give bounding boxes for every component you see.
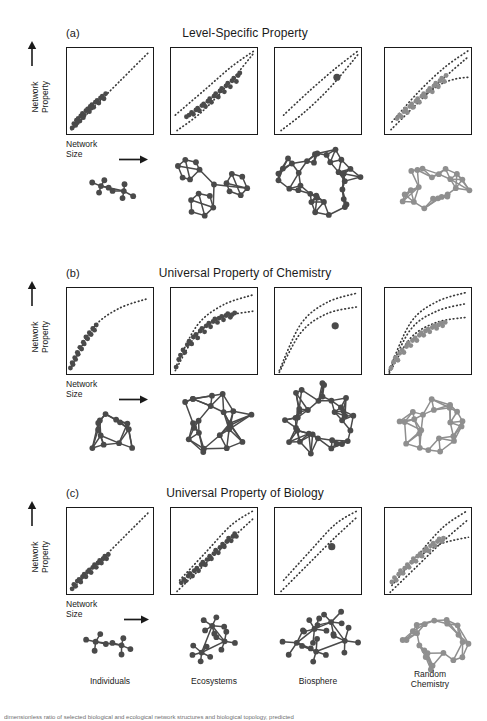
network-node — [92, 648, 98, 654]
network-node — [316, 616, 322, 622]
network-node — [339, 620, 345, 626]
network-node — [224, 445, 230, 451]
network-node — [447, 176, 453, 182]
network-node — [122, 181, 128, 187]
data-point — [394, 578, 399, 583]
network-node — [327, 159, 333, 165]
network-node — [435, 195, 441, 201]
network-node — [190, 420, 196, 426]
network-node — [128, 646, 134, 652]
network-c-biosphere — [266, 600, 374, 680]
data-point — [73, 357, 78, 362]
data-point — [414, 559, 419, 564]
network-node — [314, 151, 320, 157]
network-node — [400, 199, 406, 205]
scatter-panel-c-random-chemistry[interactable] — [384, 507, 472, 595]
network-node — [285, 155, 291, 161]
network-node — [97, 418, 103, 424]
network-node — [119, 642, 125, 648]
network-node — [456, 632, 462, 638]
data-point — [328, 543, 335, 550]
network-node — [210, 205, 216, 211]
network-node — [338, 157, 344, 163]
x-axis-label-line1: Network — [66, 379, 97, 389]
data-point — [96, 101, 101, 106]
column-label-random-chemistry-line1: Random — [414, 669, 446, 679]
scatter-panel-a-individuals[interactable] — [66, 47, 154, 135]
y-axis-label-c: Network Property — [30, 522, 50, 592]
data-point — [99, 561, 104, 566]
data-point — [399, 114, 404, 119]
data-point — [203, 562, 208, 567]
data-point — [85, 336, 90, 341]
network-node — [98, 183, 104, 189]
y-axis-label-b: Network Property — [30, 302, 50, 372]
y-axis-label-a: Network Property — [30, 62, 50, 132]
network-node — [324, 628, 330, 634]
figure-caption: dimensionless ratio of selected biologic… — [4, 714, 483, 721]
network-node — [310, 659, 316, 665]
network-node — [343, 395, 349, 401]
data-point — [391, 360, 396, 365]
data-point — [82, 341, 87, 346]
lower-curve — [390, 520, 467, 592]
data-point — [417, 100, 422, 105]
network-node — [459, 423, 465, 429]
scatter-panel-c-biosphere[interactable] — [274, 507, 362, 595]
upper-curve — [175, 295, 252, 368]
scatter-panel-a-random-chemistry[interactable] — [384, 47, 472, 135]
data-point — [427, 329, 432, 334]
data-point — [103, 91, 108, 96]
network-node — [232, 640, 238, 646]
network-node — [416, 643, 422, 649]
network-node — [437, 449, 443, 455]
network-node — [328, 445, 334, 451]
y-axis-label-line2: Property — [40, 321, 50, 353]
middle-curve — [389, 303, 466, 371]
network-node — [190, 643, 196, 649]
network-node — [209, 393, 215, 399]
network-node — [459, 177, 465, 183]
x-axis-label-line1: Network — [66, 139, 97, 149]
scatter-panel-b-ecosystems[interactable] — [170, 287, 258, 375]
network-node — [175, 163, 181, 169]
data-point — [216, 95, 221, 100]
network-c-ecosystems — [164, 608, 264, 674]
row-tag-c: (c) — [66, 487, 79, 499]
x-axis-label-b: Network Size — [66, 379, 97, 399]
network-b-biosphere — [268, 378, 372, 462]
network-node — [348, 166, 354, 172]
data-point — [436, 84, 441, 89]
y-axis-label-line1: Network — [30, 321, 40, 352]
scatter-panel-b-random-chemistry[interactable] — [384, 287, 472, 375]
x-axis-label-line1: Network — [66, 599, 97, 609]
data-point — [174, 365, 179, 370]
data-point — [405, 110, 410, 115]
data-point — [228, 84, 233, 89]
network-b-ecosystems — [166, 386, 262, 460]
network-node — [358, 174, 364, 180]
data-point — [104, 556, 109, 561]
network-edge — [223, 394, 234, 411]
network-node — [294, 640, 300, 646]
network-node — [466, 641, 472, 647]
scatter-panel-c-individuals[interactable] — [66, 507, 154, 595]
scatter-panel-a-biosphere[interactable] — [274, 47, 362, 135]
column-label-individuals: Individuals — [62, 676, 158, 686]
network-node — [98, 433, 104, 439]
scatter-panel-b-biosphere[interactable] — [274, 287, 362, 375]
network-node — [421, 648, 427, 654]
network-node — [324, 152, 330, 158]
x-axis-label-line2: Size — [66, 149, 83, 159]
data-point — [183, 579, 188, 584]
network-node — [201, 617, 207, 623]
data-point — [237, 70, 242, 75]
data-point — [83, 574, 88, 579]
scatter-panel-b-individuals[interactable] — [66, 287, 154, 375]
network-node — [451, 438, 457, 444]
data-point — [190, 573, 195, 578]
network-node — [339, 187, 345, 193]
scatter-panel-c-ecosystems[interactable] — [170, 507, 258, 595]
network-node — [422, 621, 428, 627]
scatter-panel-a-ecosystems[interactable] — [170, 47, 258, 135]
